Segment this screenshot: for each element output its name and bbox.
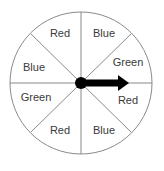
sector-label-red-bottomleft: Red	[50, 124, 70, 136]
sector-label-green-left: Green	[21, 91, 52, 103]
sector-label-green-right: Green	[113, 56, 144, 68]
sector-label-blue-left: Blue	[23, 61, 45, 73]
sector-label-red-right: Red	[118, 94, 138, 106]
spinner-figure: Green Blue Red Blue Green Red Blue Red	[0, 0, 164, 171]
spinner-graphic: Green Blue Red Blue Green Red Blue Red	[0, 0, 164, 171]
sector-label-blue-topright: Blue	[93, 27, 115, 39]
sector-label-red-topleft: Red	[50, 27, 70, 39]
sector-label-blue-bottomright: Blue	[93, 124, 115, 136]
spinner-hub	[75, 77, 87, 89]
